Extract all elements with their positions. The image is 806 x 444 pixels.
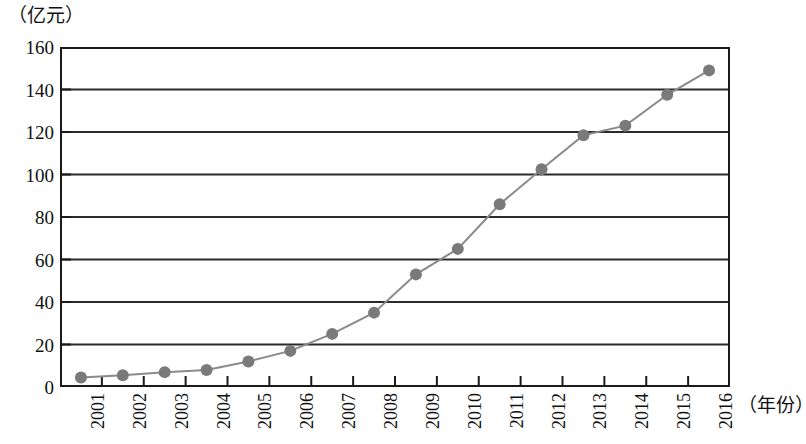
- x-axis-tick-label: 2012: [550, 393, 568, 429]
- x-axis-tick-label: 2005: [256, 393, 274, 429]
- x-axis-tick-label: 2001: [89, 393, 107, 429]
- x-axis-tick-label: 2014: [633, 393, 651, 429]
- x-axis-tick-label: 2009: [424, 393, 442, 429]
- x-axis-tick-label: 2004: [215, 393, 233, 429]
- x-axis-tick-label: 2016: [717, 393, 735, 429]
- x-axis-tick-label: 2013: [591, 393, 609, 429]
- x-axis-tick-label: 2007: [340, 393, 358, 429]
- x-axis-tick-label: 2008: [382, 393, 400, 429]
- x-axis-tick-label: 2015: [675, 393, 693, 429]
- x-axis-tick-label: 2002: [131, 393, 149, 429]
- x-axis-tick-label: 2006: [298, 393, 316, 429]
- x-axis-tick-label: 2011: [508, 393, 526, 428]
- x-axis-tick-label: 2010: [466, 393, 484, 429]
- x-axis-tick-label: 2003: [173, 393, 191, 429]
